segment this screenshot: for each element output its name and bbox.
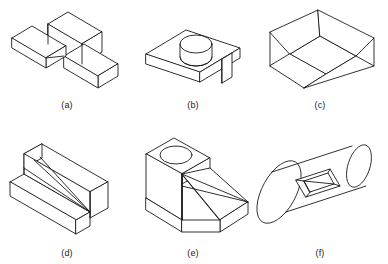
cylinder-with-rectangular-slot-icon [256, 124, 384, 242]
figure-c-caption: (c) [256, 101, 384, 110]
stepped-slab-with-two-arms-icon [4, 4, 130, 96]
stepped-block-with-diagonal-ramp-icon [4, 124, 130, 242]
figure-f: (f) [256, 124, 384, 260]
figure-b-caption: (b) [130, 101, 256, 110]
figure-c-drawing [256, 4, 384, 96]
figure-f-drawing [256, 124, 384, 242]
open-tray-with-flared-walls-icon [256, 4, 384, 96]
figure-d-drawing [4, 124, 130, 242]
figure-e-drawing [130, 124, 256, 242]
figure-b: (b) [130, 4, 256, 112]
figure-a-caption: (a) [4, 101, 130, 110]
figure-sheet: (a) (b) [0, 0, 388, 264]
figure-c: (c) [256, 4, 384, 112]
figure-e-caption: (e) [130, 249, 256, 258]
figure-a: (a) [4, 4, 130, 112]
plate-with-cylindrical-boss-icon [130, 4, 256, 96]
figure-d: (d) [4, 124, 130, 260]
figure-f-caption: (f) [256, 249, 384, 258]
figure-b-drawing [130, 4, 256, 96]
wedge-block-with-through-hole-icon [130, 124, 256, 242]
figure-a-drawing [4, 4, 130, 96]
figure-d-caption: (d) [4, 249, 130, 258]
figure-e: (e) [130, 124, 256, 260]
